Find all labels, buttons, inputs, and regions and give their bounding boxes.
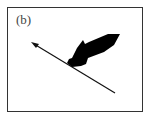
black-arrow-shape <box>67 34 120 67</box>
arrow-head-icon <box>31 42 39 48</box>
diagram-canvas <box>0 0 153 116</box>
